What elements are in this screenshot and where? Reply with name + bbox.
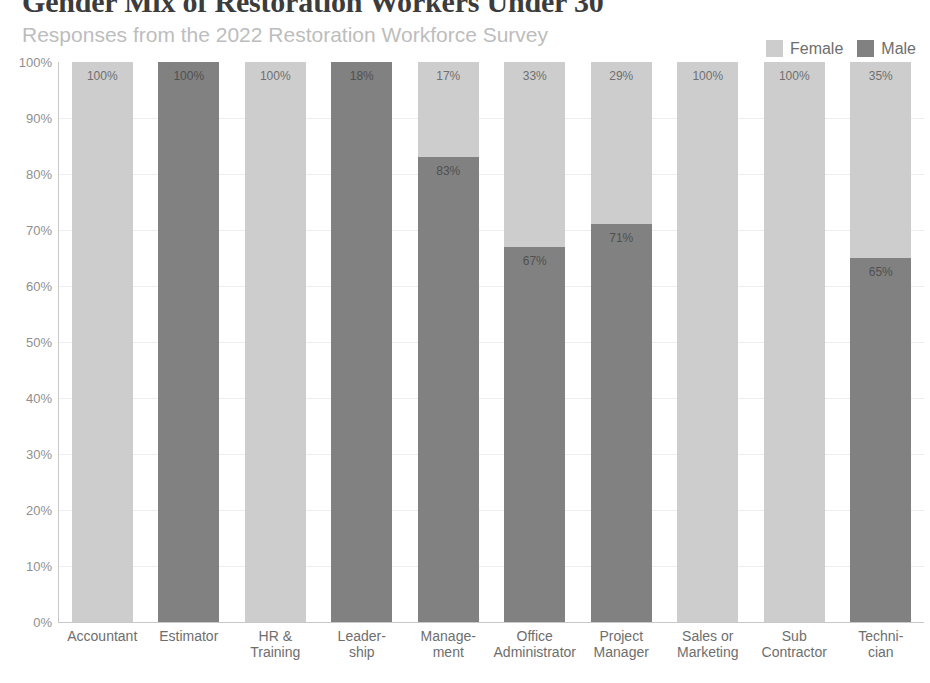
bar-stack[interactable]: 100%: [245, 62, 306, 622]
x-tick-label: Manage- ment: [405, 628, 492, 660]
x-tick-label: Office Administrator: [492, 628, 579, 660]
bar-slot: 18%: [319, 62, 406, 622]
bar-segment-female[interactable]: 29%: [591, 62, 652, 224]
bars-container: 100%100%100%18%17%83%33%67%29%71%100%100…: [59, 62, 924, 622]
legend-swatch-male: [857, 40, 874, 57]
x-tick-label: HR & Training: [232, 628, 319, 660]
bar-value-label: 100%: [245, 69, 306, 83]
bar-value-label: 17%: [418, 69, 479, 83]
y-tick-label: 70%: [26, 223, 52, 238]
y-tick-label: 20%: [26, 503, 52, 518]
bar-segment-male[interactable]: 100%: [158, 62, 219, 622]
bar-slot: 100%: [146, 62, 233, 622]
y-axis: 100%90%80%70%60%50%40%30%20%10%0%: [0, 62, 58, 622]
y-tick-label: 40%: [26, 391, 52, 406]
legend-label-female: Female: [790, 40, 843, 57]
bar-slot: 100%: [665, 62, 752, 622]
legend-label-male: Male: [881, 40, 916, 57]
bar-value-label: 100%: [158, 69, 219, 83]
x-axis-labels: AccountantEstimatorHR & TrainingLeader- …: [59, 628, 924, 660]
legend-swatch-female: [766, 40, 783, 57]
bar-value-label: 71%: [591, 231, 652, 245]
bar-stack[interactable]: 33%67%: [504, 62, 565, 622]
bar-value-label: 100%: [764, 69, 825, 83]
bar-value-label: 83%: [418, 164, 479, 178]
bar-stack[interactable]: 35%65%: [850, 62, 911, 622]
x-tick-label: Sub Contractor: [751, 628, 838, 660]
bar-value-label: 33%: [504, 69, 565, 83]
bar-segment-female[interactable]: 100%: [245, 62, 306, 622]
bar-segment-female[interactable]: 100%: [764, 62, 825, 622]
bar-stack[interactable]: 18%: [331, 62, 392, 622]
bar-stack[interactable]: 100%: [764, 62, 825, 622]
bar-segment-male[interactable]: 65%: [850, 258, 911, 622]
y-tick-label: 80%: [26, 167, 52, 182]
bar-stack[interactable]: 100%: [158, 62, 219, 622]
legend-item-female[interactable]: Female: [766, 40, 843, 57]
x-tick-label: Techni- cian: [838, 628, 925, 660]
bar-value-label: 65%: [850, 265, 911, 279]
y-tick-label: 90%: [26, 111, 52, 126]
bar-value-label: 67%: [504, 254, 565, 268]
bar-slot: 100%: [751, 62, 838, 622]
y-tick-label: 50%: [26, 335, 52, 350]
bar-segment-male[interactable]: 83%: [418, 157, 479, 622]
x-tick-label: Estimator: [146, 628, 233, 660]
x-tick-label: Leader- ship: [319, 628, 406, 660]
bar-stack[interactable]: 29%71%: [591, 62, 652, 622]
plot-area: 100%90%80%70%60%50%40%30%20%10%0% 100%10…: [0, 62, 930, 683]
y-tick-label: 60%: [26, 279, 52, 294]
bar-segment-male[interactable]: 67%: [504, 247, 565, 622]
bar-slot: 29%71%: [578, 62, 665, 622]
bar-value-label: 18%: [331, 69, 392, 83]
bar-value-label: 100%: [72, 69, 133, 83]
y-tick-label: 100%: [19, 55, 52, 70]
bar-segment-female[interactable]: 17%: [418, 62, 479, 157]
bar-slot: 33%67%: [492, 62, 579, 622]
bar-segment-female[interactable]: 35%: [850, 62, 911, 258]
y-tick-label: 0%: [33, 615, 52, 630]
chart-title: Gender Mix of Restoration Workers Under …: [22, 0, 908, 18]
y-tick-label: 30%: [26, 447, 52, 462]
legend-item-male[interactable]: Male: [857, 40, 916, 57]
bar-segment-female[interactable]: 100%: [677, 62, 738, 622]
bar-value-label: 100%: [677, 69, 738, 83]
bar-segment-female[interactable]: 33%: [504, 62, 565, 247]
bar-value-label: 29%: [591, 69, 652, 83]
bar-segment-male[interactable]: 18%: [331, 62, 392, 622]
x-tick-label: Sales or Marketing: [665, 628, 752, 660]
bar-slot: 17%83%: [405, 62, 492, 622]
x-tick-label: Project Manager: [578, 628, 665, 660]
bar-slot: 35%65%: [838, 62, 925, 622]
bar-stack[interactable]: 100%: [677, 62, 738, 622]
y-tick-label: 10%: [26, 559, 52, 574]
bar-segment-female[interactable]: 100%: [72, 62, 133, 622]
chart-legend: FemaleMale: [766, 40, 916, 57]
x-axis-line: [58, 622, 924, 623]
x-tick-label: Accountant: [59, 628, 146, 660]
bar-stack[interactable]: 100%: [72, 62, 133, 622]
bar-slot: 100%: [232, 62, 319, 622]
bar-segment-male[interactable]: 71%: [591, 224, 652, 622]
bar-stack[interactable]: 17%83%: [418, 62, 479, 622]
bar-value-label: 35%: [850, 69, 911, 83]
bar-slot: 100%: [59, 62, 146, 622]
